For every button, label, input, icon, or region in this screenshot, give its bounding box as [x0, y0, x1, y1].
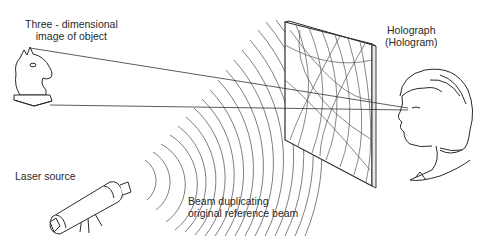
laser-label: Laser source	[15, 170, 76, 182]
hologram-label-line2: (Hologram)	[385, 36, 438, 48]
object-label-line1: Three - dimensional	[25, 18, 118, 30]
beam-label-line1: Beam duplicating	[188, 195, 298, 207]
hologram-label: Holograph (Hologram)	[385, 24, 438, 48]
object-label-line2: image of object	[25, 30, 118, 42]
beam-label-line2: original reference beam	[188, 207, 298, 219]
hologram-plate	[285, 21, 376, 188]
laser	[50, 182, 131, 234]
beam-label: Beam duplicating original reference beam	[188, 195, 298, 219]
object-label: Three - dimensional image of object	[25, 18, 118, 42]
viewer-face	[398, 69, 472, 180]
hologram-diagram: Three - dimensional image of object Holo…	[0, 0, 486, 245]
chess-knight	[14, 47, 52, 106]
hologram-label-line1: Holograph	[385, 24, 438, 36]
laser-label-line1: Laser source	[15, 170, 76, 182]
